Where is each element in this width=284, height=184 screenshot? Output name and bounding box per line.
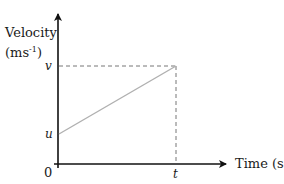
origin-label: 0: [44, 166, 52, 179]
velocity-line: [59, 66, 176, 134]
x-axis-label: Time (s): [235, 157, 284, 170]
t-tick-label: t: [173, 168, 178, 180]
v-tick-label: v: [45, 60, 52, 72]
u-tick-label: u: [45, 128, 53, 140]
y-axis-label: Velocity (ms-1): [5, 24, 57, 61]
y-axis-unit: (ms-1): [5, 41, 57, 61]
y-axis-label-text: Velocity: [5, 24, 57, 41]
